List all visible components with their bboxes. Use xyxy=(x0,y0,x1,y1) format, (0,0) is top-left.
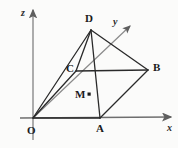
vertex-label-D: D xyxy=(85,13,93,24)
edge-BC xyxy=(76,70,148,71)
vertex-label-O: O xyxy=(27,125,36,136)
edge-OD xyxy=(33,30,91,118)
vertex-label-C: C xyxy=(66,63,74,74)
geometry-figure: z y x O A B C D M xyxy=(0,0,178,148)
vertex-label-M: M xyxy=(75,89,85,100)
edge-AD xyxy=(91,30,100,118)
axis-label-z: z xyxy=(21,8,25,18)
solid-edges-group xyxy=(33,30,148,118)
edge-CO xyxy=(33,71,76,118)
axis-label-y: y xyxy=(113,17,117,27)
vertex-label-A: A xyxy=(96,123,104,134)
point-M-marker xyxy=(88,93,91,96)
vertex-label-B: B xyxy=(153,62,160,73)
axis-label-x: x xyxy=(167,123,172,133)
point-markers-group xyxy=(88,93,91,96)
edge-AB xyxy=(100,70,148,118)
axis-y-line xyxy=(33,26,130,118)
